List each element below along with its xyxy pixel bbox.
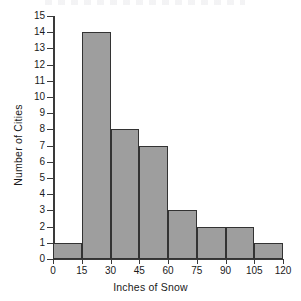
- x-tick-label: 120: [268, 265, 298, 276]
- x-tick-mark: [254, 259, 255, 264]
- x-tick-label: 15: [67, 265, 97, 276]
- y-tick-mark: [47, 81, 53, 82]
- x-tick-label: 30: [96, 265, 126, 276]
- y-tick-label: 13: [0, 43, 45, 53]
- x-tick-label: 105: [239, 265, 269, 276]
- x-tick-mark: [53, 259, 54, 264]
- histogram-bar: [82, 32, 111, 259]
- x-tick-mark: [283, 259, 284, 264]
- x-tick-label: 75: [182, 265, 212, 276]
- y-tick-mark: [47, 97, 53, 98]
- x-tick-mark: [168, 259, 169, 264]
- x-tick-mark: [226, 259, 227, 264]
- y-tick-mark: [47, 146, 53, 147]
- y-tick-mark: [47, 178, 53, 179]
- histogram-bar: [53, 243, 82, 259]
- y-tick-label: 2: [0, 222, 45, 232]
- y-tick-mark: [47, 210, 53, 211]
- y-tick-mark: [47, 129, 53, 130]
- y-tick-label: 1: [0, 238, 45, 248]
- y-tick-mark: [47, 16, 53, 17]
- x-tick-label: 45: [124, 265, 154, 276]
- y-axis-title: Number of Cities: [12, 75, 24, 215]
- y-tick-label: 0: [0, 254, 45, 264]
- histogram-bar: [168, 210, 197, 259]
- x-tick-mark: [139, 259, 140, 264]
- y-tick-mark: [47, 194, 53, 195]
- x-tick-label: 0: [38, 265, 68, 276]
- y-tick-mark: [47, 113, 53, 114]
- y-axis-line: [53, 16, 55, 260]
- y-tick-mark: [47, 48, 53, 49]
- x-tick-mark: [82, 259, 83, 264]
- y-tick-mark: [47, 227, 53, 228]
- y-tick-label: 14: [0, 27, 45, 37]
- x-tick-label: 60: [153, 265, 183, 276]
- histogram-bar: [111, 129, 140, 259]
- y-tick-mark: [47, 65, 53, 66]
- histogram-chart: 0123456789101112131415 01530456075901051…: [0, 0, 301, 301]
- y-tick-label: 12: [0, 60, 45, 70]
- histogram-bar: [197, 227, 226, 259]
- x-tick-label: 90: [211, 265, 241, 276]
- histogram-bar: [139, 146, 168, 259]
- x-tick-mark: [111, 259, 112, 264]
- y-tick-mark: [47, 32, 53, 33]
- histogram-bar: [254, 243, 283, 259]
- y-tick-mark: [47, 162, 53, 163]
- x-tick-mark: [197, 259, 198, 264]
- y-tick-label: 15: [0, 11, 45, 21]
- x-axis-title: Inches of Snow: [0, 281, 301, 293]
- histogram-bar: [226, 227, 255, 259]
- chart-title-cropped: [45, 0, 245, 5]
